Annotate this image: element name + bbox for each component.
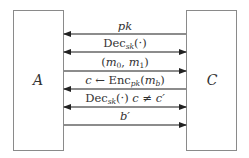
label-pk: pk bbox=[118, 21, 132, 33]
label-guess: b′ bbox=[120, 111, 130, 123]
label-dec-oracle: Decsk(·) bbox=[103, 38, 147, 51]
label-messages: (m0, m1) bbox=[101, 57, 149, 70]
label-dec-oracle-restricted: Decsk(·) c ≠ c′ bbox=[85, 93, 165, 106]
label-challenge: c ← Encpk(mb) bbox=[85, 75, 165, 88]
